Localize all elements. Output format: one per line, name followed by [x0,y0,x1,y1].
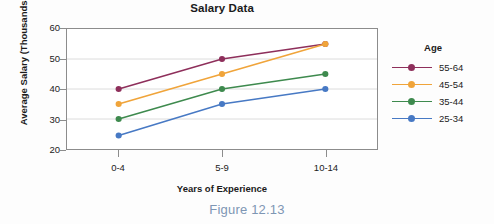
y-tick-label: 30 [38,115,60,125]
data-point [322,41,328,47]
legend-item-label: 55-64 [439,62,463,73]
y-tick-label: 20 [38,145,60,155]
legend-item[interactable]: 45-54 [392,76,490,93]
data-point [322,86,328,92]
data-point [219,101,225,107]
legend-item[interactable]: 25-34 [392,110,490,127]
legend-swatch-icon [392,96,432,108]
legend: Age 55-6445-5435-4425-34 [392,42,490,127]
x-tick-mark [326,150,327,157]
data-point [116,101,122,107]
legend-items: 55-6445-5435-4425-34 [392,59,490,127]
data-point [322,71,328,77]
data-point [116,132,122,138]
figure-container: Salary Data Average Salary (Thousands of… [0,0,494,224]
x-tick-label: 10-14 [296,162,356,173]
x-tick-label: 0-4 [88,162,148,173]
plot-area [66,28,378,150]
legend-swatch-icon [392,79,432,91]
legend-item[interactable]: 35-44 [392,93,490,110]
series-line [119,44,326,89]
y-tick-mark [60,150,66,151]
legend-item-label: 25-34 [439,113,463,124]
series-line [119,89,326,136]
y-tick-label: 50 [38,54,60,64]
y-tick-label: 60 [38,23,60,33]
x-tick-mark [222,150,223,157]
legend-item[interactable]: 55-64 [392,59,490,76]
x-axis-title: Years of Experience [66,183,378,194]
data-point [116,86,122,92]
data-point [116,116,122,122]
y-axis-title: Average Salary (Thousands of $) [18,0,29,127]
legend-swatch-icon [392,113,432,125]
data-point [219,86,225,92]
chart-title: Salary Data [66,2,378,14]
x-tick-mark [118,150,119,157]
y-tick-label: 40 [38,84,60,94]
figure-caption: Figure 12.13 [0,202,494,217]
legend-item-label: 35-44 [439,96,463,107]
y-axis-ticks: 2030405060 [38,0,60,224]
plot-svg [67,29,377,149]
data-point [219,71,225,77]
legend-item-label: 45-54 [439,79,463,90]
x-tick-label: 5-9 [192,162,252,173]
legend-swatch-icon [392,62,432,74]
legend-title: Age [394,42,472,53]
data-point [219,56,225,62]
